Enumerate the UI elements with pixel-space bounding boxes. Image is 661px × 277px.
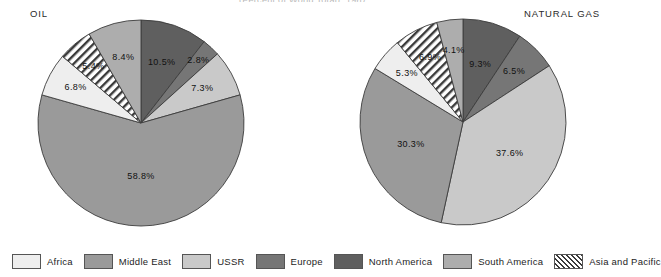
legend-item[interactable]: USSR — [182, 254, 244, 269]
legend-swatch — [334, 254, 363, 269]
pie-slice-label: 58.8% — [127, 171, 155, 181]
pie-slice-label: 30.3% — [397, 139, 425, 149]
pie-slice-label: 6.8% — [65, 82, 87, 92]
legend-label: Africa — [47, 256, 73, 267]
pie-slice-label: 9.3% — [469, 59, 491, 69]
pie-slice-label: 4.1% — [443, 45, 465, 55]
pie-slice-label: 8.4% — [112, 52, 134, 62]
legend-item[interactable]: South America — [443, 254, 543, 269]
pie-panel-oil: OIL 10.5%2.8%7.3%58.8%6.8%5.4%8.4% — [0, 0, 303, 240]
legend-swatch — [84, 254, 113, 269]
legend-label: South America — [478, 256, 543, 267]
legend-swatch — [182, 254, 211, 269]
legend-item[interactable]: Africa — [12, 254, 73, 269]
pie-chart-natural-gas: 9.3%6.5%37.6%30.3%5.3%6.9%4.1% — [303, 0, 606, 240]
pie-slice-label: 7.3% — [191, 83, 213, 93]
pie-slice-label: 10.5% — [148, 57, 176, 67]
legend-item[interactable]: Middle East — [84, 254, 171, 269]
legend-item[interactable]: North America — [334, 254, 432, 269]
legend-label: Europe — [291, 256, 323, 267]
legend-swatch — [554, 254, 583, 269]
pie-chart-oil: 10.5%2.8%7.3%58.8%6.8%5.4%8.4% — [0, 0, 303, 240]
legend-swatch — [256, 254, 285, 269]
pie-slice-label: 5.3% — [396, 68, 418, 78]
pie-slice-label: 6.9% — [419, 52, 441, 62]
legend: AfricaMiddle EastUSSREuropeNorth America… — [0, 246, 606, 277]
legend-swatch — [12, 254, 41, 269]
legend-label: Middle East — [119, 256, 171, 267]
pie-slice-label: 37.6% — [496, 148, 524, 158]
legend-item[interactable]: Europe — [256, 254, 323, 269]
charts-area: OIL 10.5%2.8%7.3%58.8%6.8%5.4%8.4% NATUR… — [0, 0, 606, 240]
pie-slice-label: 5.4% — [82, 61, 104, 71]
legend-swatch — [443, 254, 472, 269]
pie-panel-natural-gas: NATURAL GAS 9.3%6.5%37.6%30.3%5.3%6.9%4.… — [303, 0, 606, 240]
pie-slice-label: 6.5% — [503, 66, 525, 76]
legend-label: North America — [369, 256, 432, 267]
legend-item[interactable]: Asia and Pacific — [554, 254, 661, 269]
legend-label: Asia and Pacific — [589, 256, 661, 267]
legend-label: USSR — [217, 256, 244, 267]
